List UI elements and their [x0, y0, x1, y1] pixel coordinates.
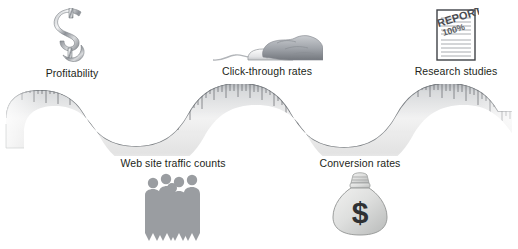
- money-bag-icon: $: [329, 171, 391, 243]
- node-research-studies: REPORT 100% Research studies: [397, 8, 515, 78]
- node-web-site-traffic-counts: Web site traffic counts: [106, 157, 240, 243]
- hand-on-mouse-icon: [211, 30, 323, 64]
- people-group-icon: [137, 171, 209, 243]
- node-label-profitability: Profitability: [46, 67, 99, 80]
- node-click-through-rates: Click-through rates: [199, 30, 335, 78]
- node-label-web-site-traffic-counts: Web site traffic counts: [120, 157, 225, 170]
- report-document-icon: REPORT 100%: [433, 8, 479, 64]
- node-profitability: Profitability: [12, 8, 132, 80]
- node-label-conversion-rates: Conversion rates: [320, 157, 401, 170]
- node-conversion-rates: $ Conversion rates: [300, 157, 420, 243]
- dollar-sign-icon: [49, 8, 95, 66]
- measuring-tape-ribbon: [0, 84, 518, 156]
- metrics-wave-diagram: Profitability: [0, 0, 518, 249]
- node-label-click-through-rates: Click-through rates: [222, 65, 312, 78]
- node-label-research-studies: Research studies: [415, 65, 498, 78]
- money-bag-dollar-symbol: $: [352, 196, 369, 229]
